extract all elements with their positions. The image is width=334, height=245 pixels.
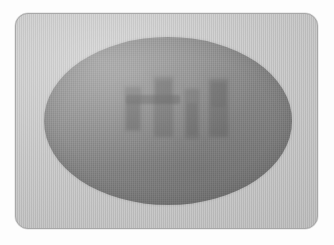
mark-halo-3 — [181, 85, 203, 143]
vertical-mark-4-core — [211, 83, 226, 107]
vertical-mark-2-core — [156, 81, 171, 103]
mark-halo-2 — [150, 73, 177, 141]
vertical-mark-1 — [125, 87, 141, 131]
oval-specimen — [44, 37, 292, 205]
image-viewport — [0, 0, 334, 245]
vertical-mark-2 — [154, 77, 173, 137]
mark-halo-4 — [205, 75, 232, 141]
vertical-mark-3-core — [187, 103, 197, 135]
mark-halo-1 — [122, 83, 144, 135]
vertical-mark-1-core — [127, 101, 139, 129]
marks-cluster — [44, 37, 292, 205]
specimen-shading-overlay — [44, 37, 292, 205]
vertical-mark-3 — [185, 89, 199, 139]
horizontal-band-1 — [126, 95, 180, 104]
vertical-mark-4 — [209, 79, 228, 137]
specimen-plate — [15, 13, 318, 229]
specimen-grain-overlay — [44, 37, 292, 205]
